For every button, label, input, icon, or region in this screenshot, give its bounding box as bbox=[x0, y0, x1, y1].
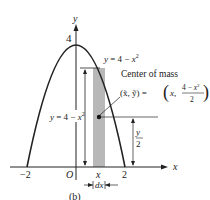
y-axis-label: y bbox=[72, 13, 78, 24]
curve-equation: yy = 4 − x = 4 − x2 bbox=[103, 53, 139, 64]
arrow-left-icon bbox=[105, 183, 110, 187]
centroid-title: Center of mass bbox=[121, 69, 178, 79]
centroid-coords-num: 4 − x2 bbox=[182, 83, 200, 92]
figure-caption: (b) bbox=[69, 191, 81, 200]
height-label: y = 4 − x2 bbox=[49, 111, 85, 122]
paren-right: ) bbox=[203, 82, 209, 103]
half-height-den: 2 bbox=[136, 139, 141, 149]
x-axis-label: x bbox=[172, 161, 178, 172]
x-tick-2: 2 bbox=[122, 169, 127, 180]
arrow-down-icon bbox=[131, 161, 135, 166]
x-axis-arrow-icon bbox=[161, 165, 168, 170]
arrow-up-icon bbox=[131, 118, 135, 123]
origin-label: O bbox=[66, 169, 73, 180]
half-height-num: y bbox=[135, 127, 140, 137]
arrow-up-icon bbox=[83, 69, 87, 74]
strip-x-label: x bbox=[95, 169, 101, 180]
x-tick-neg2: −2 bbox=[20, 169, 31, 180]
paren-left: ( bbox=[163, 82, 169, 103]
dx-label: dx bbox=[95, 180, 104, 190]
centroid-coords-x: x, bbox=[169, 88, 176, 98]
arrow-down-icon bbox=[83, 161, 87, 166]
centroid-coords-den: 2 bbox=[190, 95, 194, 104]
y-tick-4: 4 bbox=[66, 32, 72, 44]
centroid-coords-lhs: (x̃, ỹ) = bbox=[120, 88, 147, 98]
parabola-diagram: y 4 x −2 2 O x dx yy = 4 − x = 4 − x2 y … bbox=[0, 0, 210, 200]
arrow-right-icon bbox=[88, 183, 93, 187]
y-axis-arrow-icon bbox=[74, 24, 79, 31]
